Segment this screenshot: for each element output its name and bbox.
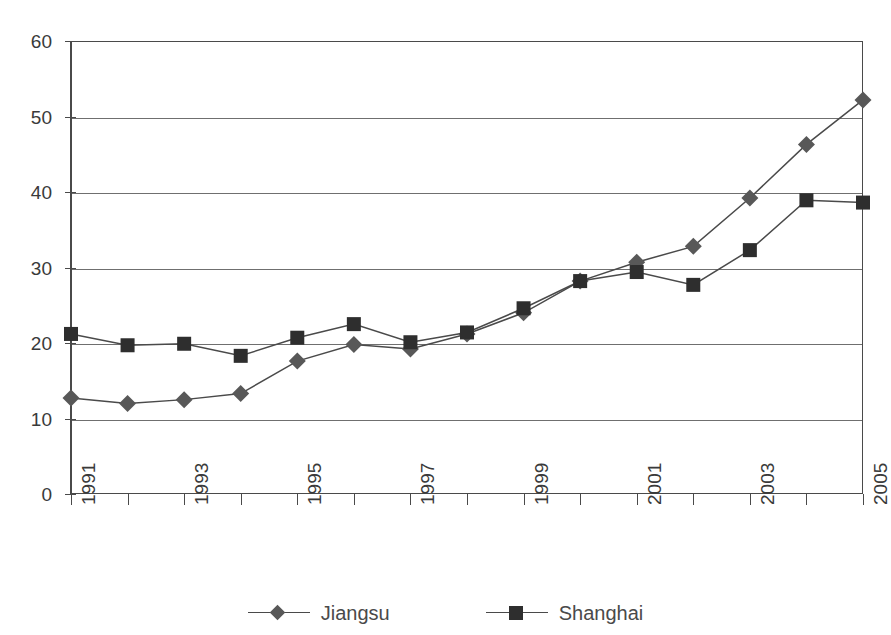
gridline <box>72 118 862 119</box>
x-tick-label: 1997 <box>418 463 437 505</box>
y-tick-mark <box>65 343 76 344</box>
x-tick-mark <box>410 494 411 505</box>
x-tick-label: 1995 <box>305 463 324 505</box>
legend-item-shanghai[interactable]: Shanghai <box>486 602 644 625</box>
y-tick-label: 40 <box>6 183 52 202</box>
gridline <box>72 344 862 345</box>
gridline <box>72 269 862 270</box>
x-tick-mark <box>241 494 242 505</box>
x-tick-mark <box>524 494 525 505</box>
line-chart: 0102030405060 19911993199519971999200120… <box>0 0 891 635</box>
gridline <box>72 420 862 421</box>
x-tick-mark <box>467 494 468 505</box>
y-tick-mark <box>65 268 76 269</box>
x-tick-label: 1993 <box>192 463 211 505</box>
x-tick-label: 1999 <box>532 463 551 505</box>
y-tick-mark <box>65 41 76 42</box>
y-tick-label: 10 <box>6 410 52 429</box>
y-tick-label: 0 <box>6 485 52 504</box>
x-tick-mark <box>128 494 129 505</box>
x-tick-mark <box>693 494 694 505</box>
legend-item-jiangsu[interactable]: Jiangsu <box>248 602 390 625</box>
y-tick-mark <box>65 117 76 118</box>
y-tick-label: 50 <box>6 108 52 127</box>
plot-area <box>71 41 863 494</box>
y-tick-mark <box>65 192 76 193</box>
square-marker-icon <box>486 605 548 621</box>
y-tick-label: 60 <box>6 32 52 51</box>
x-tick-mark <box>863 494 864 505</box>
x-tick-label: 2001 <box>645 463 664 505</box>
x-tick-mark <box>637 494 638 505</box>
legend-label: Shanghai <box>559 602 644 625</box>
chart-legend: Jiangsu Shanghai <box>0 596 891 630</box>
y-tick-label: 20 <box>6 334 52 353</box>
x-tick-label: 2003 <box>758 463 777 505</box>
chart-title <box>0 0 891 3</box>
y-tick-mark <box>65 419 76 420</box>
gridline <box>72 193 862 194</box>
y-tick-label: 30 <box>6 259 52 278</box>
x-tick-mark <box>297 494 298 505</box>
x-tick-mark <box>184 494 185 505</box>
x-tick-label: 1991 <box>79 463 98 505</box>
legend-label: Jiangsu <box>321 602 390 625</box>
x-tick-label: 2005 <box>871 463 890 505</box>
x-tick-mark <box>580 494 581 505</box>
x-tick-mark <box>750 494 751 505</box>
x-tick-mark <box>354 494 355 505</box>
x-tick-mark <box>806 494 807 505</box>
diamond-marker-icon <box>248 605 310 621</box>
x-tick-mark <box>71 494 72 505</box>
